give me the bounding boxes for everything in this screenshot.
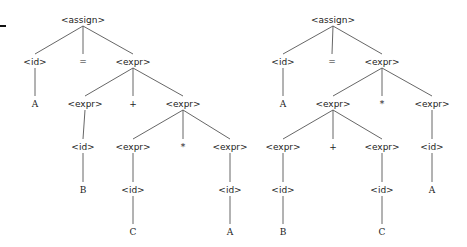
diagram-svg: <assign><id>=<expr>A<expr>+<expr><id><ex…: [0, 0, 467, 247]
terminal-node: *: [380, 99, 385, 109]
nonterminal-node: <id>: [420, 142, 443, 152]
tree-edge: [283, 26, 333, 54]
nonterminal-node: <expr>: [212, 142, 247, 152]
tree-edge: [183, 110, 230, 139]
terminal-node: +: [329, 142, 337, 152]
nonterminal-node: <expr>: [265, 142, 300, 152]
tree-edge: [332, 26, 333, 54]
nonterminal-node: <expr>: [315, 99, 350, 109]
nonterminal-node: <id>: [271, 57, 294, 67]
nonterminal-node: <expr>: [115, 57, 150, 67]
tree-edge: [83, 110, 85, 139]
tree-edge: [133, 110, 183, 139]
terminal-node: =: [79, 57, 87, 67]
parse-tree-diagram: <assign><id>=<expr>A<expr>+<expr><id><ex…: [0, 0, 467, 247]
nonterminal-node: <assign>: [311, 15, 355, 25]
nonterminal-node: <expr>: [364, 57, 399, 67]
terminal-node: A: [226, 227, 234, 237]
nonterminal-node: <id>: [271, 185, 294, 195]
tree-edge: [333, 68, 382, 96]
nonterminal-node: <expr>: [414, 99, 449, 109]
terminal-node: =: [328, 57, 336, 67]
terminal-node: A: [428, 185, 436, 195]
nonterminal-node: <id>: [71, 142, 94, 152]
tree-edge: [35, 26, 83, 54]
terminal-node: A: [31, 99, 39, 109]
nonterminal-node: <id>: [218, 185, 241, 195]
terminal-node: +: [129, 99, 137, 109]
nonterminal-node: <id>: [370, 185, 393, 195]
tree-edge: [382, 68, 432, 96]
margin-mark: [0, 25, 6, 27]
tree-edge: [283, 110, 333, 139]
nonterminal-node: <id>: [121, 185, 144, 195]
tree-edge: [333, 110, 382, 139]
tree-edge: [85, 68, 133, 96]
terminal-node: B: [80, 185, 87, 195]
terminal-node: C: [130, 227, 137, 237]
nonterminal-node: <id>: [23, 57, 46, 67]
nonterminal-node: <assign>: [61, 15, 105, 25]
terminal-node: *: [181, 142, 186, 152]
terminal-node: C: [379, 227, 386, 237]
nonterminal-node: <expr>: [364, 142, 399, 152]
tree-edge: [133, 68, 183, 96]
nonterminal-node: <expr>: [165, 99, 200, 109]
labels-layer: <assign><id>=<expr>A<expr>+<expr><id><ex…: [23, 15, 449, 237]
terminal-node: B: [280, 227, 287, 237]
terminal-node: A: [279, 99, 287, 109]
nonterminal-node: <expr>: [67, 99, 102, 109]
tree-edge: [83, 26, 133, 54]
nonterminal-node: <expr>: [115, 142, 150, 152]
tree-edge: [333, 26, 382, 54]
